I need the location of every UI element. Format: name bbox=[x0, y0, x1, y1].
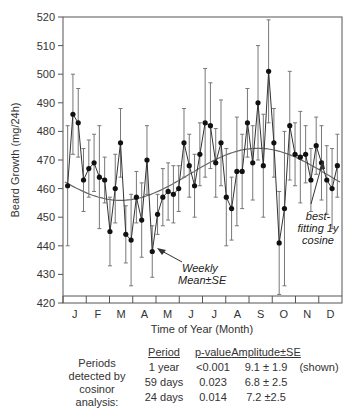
data-point bbox=[65, 183, 70, 188]
x-tick-label: J bbox=[72, 308, 78, 320]
annotation-weekly-line2: Mean±SE bbox=[178, 274, 227, 286]
annotation-fit-line3: cosine bbox=[302, 234, 334, 246]
data-point bbox=[176, 186, 181, 191]
x-tick-label: N bbox=[303, 308, 311, 320]
data-point bbox=[245, 120, 250, 125]
data-point bbox=[335, 163, 340, 168]
weekly-arrow-head-icon bbox=[157, 248, 166, 255]
data-point bbox=[86, 166, 91, 171]
x-axis-title: Time of Year (Month) bbox=[151, 323, 253, 335]
data-point bbox=[171, 192, 176, 197]
y-tick-label: 510 bbox=[37, 40, 55, 52]
data-point bbox=[314, 143, 319, 148]
cosinor-table: Periods detected by cosinor analysis: Pe… bbox=[0, 345, 355, 415]
data-point bbox=[139, 217, 144, 222]
y-tick-label: 480 bbox=[37, 125, 55, 137]
x-tick-label: A bbox=[141, 308, 149, 320]
data-point bbox=[234, 169, 239, 174]
data-point bbox=[118, 140, 123, 145]
y-axis: 420430440450460470480490500510520 bbox=[37, 11, 63, 309]
data-point bbox=[155, 212, 160, 217]
data-point bbox=[187, 163, 192, 168]
row-label-line: analysis: bbox=[62, 396, 132, 409]
y-tick-label: 430 bbox=[37, 268, 55, 280]
y-tick-label: 450 bbox=[37, 211, 55, 223]
y-axis-title: Beard Growth (mg/24h) bbox=[9, 103, 21, 218]
data-point bbox=[208, 123, 213, 128]
y-tick-label: 520 bbox=[37, 11, 55, 23]
y-tick-label: 460 bbox=[37, 183, 55, 195]
y-tick-label: 500 bbox=[37, 68, 55, 80]
data-point bbox=[76, 120, 81, 125]
x-tick-label: O bbox=[280, 308, 289, 320]
data-point bbox=[277, 240, 282, 245]
data-point bbox=[91, 160, 96, 165]
amplitude-cell: 9.1 ± 1.9 bbox=[231, 360, 301, 375]
data-point bbox=[303, 152, 308, 157]
data-point bbox=[197, 152, 202, 157]
data-point bbox=[287, 123, 292, 128]
beard-growth-chart: 420430440450460470480490500510520 JFMAMJ… bbox=[0, 0, 355, 340]
annotation-weekly-line1: Weekly bbox=[182, 262, 219, 274]
x-tick-label: M bbox=[117, 308, 126, 320]
y-tick-label: 470 bbox=[37, 154, 55, 166]
row-label-line: Periods bbox=[62, 357, 132, 370]
data-point bbox=[324, 177, 329, 182]
annotation-fit-line2: fitting 1y bbox=[298, 222, 340, 234]
data-point bbox=[229, 206, 234, 211]
amplitude-header: Amplitude±SE bbox=[231, 345, 301, 360]
data-point bbox=[213, 160, 218, 165]
data-point bbox=[70, 112, 75, 117]
data-point bbox=[134, 195, 139, 200]
data-point bbox=[160, 195, 165, 200]
data-point bbox=[255, 100, 260, 105]
x-tick-label: S bbox=[257, 308, 264, 320]
x-axis: JFMAMJJASOND bbox=[63, 296, 342, 320]
data-point bbox=[166, 189, 171, 194]
data-point bbox=[102, 177, 107, 182]
x-tick-label: A bbox=[234, 308, 242, 320]
data-point bbox=[298, 155, 303, 160]
annotation-fit-line1: best- bbox=[306, 210, 331, 222]
data-point bbox=[292, 152, 297, 157]
x-tick-label: M bbox=[163, 308, 172, 320]
x-tick-label: J bbox=[188, 308, 194, 320]
data-point bbox=[81, 177, 86, 182]
y-tick-label: 440 bbox=[37, 240, 55, 252]
data-point bbox=[329, 186, 334, 191]
note-column: (shown) bbox=[294, 360, 344, 375]
data-point bbox=[107, 229, 112, 234]
row-label-line: detected by bbox=[62, 370, 132, 383]
data-point bbox=[240, 169, 245, 174]
data-point bbox=[181, 140, 186, 145]
amplitude-cell: 6.8 ± 2.5 bbox=[231, 375, 301, 390]
data-point bbox=[150, 249, 155, 254]
data-point bbox=[261, 163, 266, 168]
data-point bbox=[250, 160, 255, 165]
data-point bbox=[129, 237, 134, 242]
data-point bbox=[97, 175, 102, 180]
data-point bbox=[123, 232, 128, 237]
x-tick-label: D bbox=[326, 308, 334, 320]
x-tick-label: F bbox=[95, 308, 102, 320]
data-point bbox=[113, 186, 118, 191]
data-point bbox=[308, 177, 313, 182]
data-point bbox=[224, 195, 229, 200]
amplitude-cell: 7.2 ±2.5 bbox=[231, 390, 301, 405]
y-tick-label: 490 bbox=[37, 97, 55, 109]
note-cell: (shown) bbox=[294, 360, 344, 375]
row-label-line: cosinor bbox=[62, 383, 132, 396]
data-point bbox=[192, 183, 197, 188]
data-point bbox=[203, 120, 208, 125]
amplitude-column: Amplitude±SE 9.1 ± 1.9 6.8 ± 2.5 7.2 ±2.… bbox=[231, 345, 301, 405]
row-label: Periods detected by cosinor analysis: bbox=[62, 357, 132, 409]
x-tick-label: J bbox=[211, 308, 217, 320]
data-point bbox=[271, 140, 276, 145]
y-tick-label: 420 bbox=[37, 297, 55, 309]
data-point bbox=[218, 140, 223, 145]
data-point bbox=[266, 69, 271, 74]
data-point bbox=[144, 157, 149, 162]
data-point bbox=[282, 206, 287, 211]
